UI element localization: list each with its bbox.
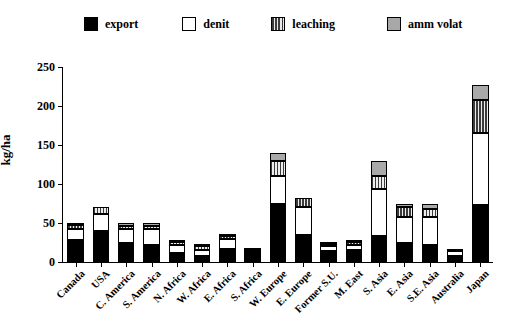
bar-segment-leaching [270, 161, 287, 177]
plot-area: 050100150200250 [62, 67, 493, 263]
x-axis-label-s-america: S. America [120, 268, 162, 310]
bar-usa [93, 207, 110, 262]
x-axis-tick [430, 262, 431, 267]
bar-japan [472, 85, 489, 262]
legend-label-leaching: leaching [292, 18, 335, 30]
x-axis-label-c-america: C. America [93, 268, 137, 312]
bar-segment-export [270, 204, 287, 263]
bar-s-e-asia [422, 204, 439, 262]
legend-item-leaching: leaching [271, 17, 335, 31]
bar-segment-export [320, 251, 337, 262]
y-axis-label: kg/ha [0, 134, 14, 165]
bar-e-africa [219, 234, 236, 262]
bar-segment-leaching [295, 198, 312, 207]
swatch-amm-volat-icon [387, 17, 401, 31]
x-axis-label-s-africa: S. Africa [228, 268, 263, 303]
bar-australia [447, 249, 464, 262]
swatch-leaching-icon [271, 17, 285, 31]
x-axis-label-e-europe: E. Europe [274, 268, 314, 308]
bar-segment-export [219, 249, 236, 262]
bar-segment-leaching [371, 176, 388, 189]
bar-segment-leaching [422, 209, 439, 217]
y-axis-tick [58, 262, 63, 263]
bar-segment-export [118, 243, 135, 263]
y-axis-tick-label: 200 [37, 99, 55, 114]
x-axis-tick [202, 262, 203, 267]
x-axis-tick [404, 262, 405, 267]
bar-n-africa [169, 240, 186, 262]
bar-segment-export [194, 256, 211, 262]
legend-item-export: export [84, 17, 138, 31]
x-axis-label-e-africa: E. Africa [202, 268, 238, 304]
x-axis-tick [101, 262, 102, 267]
bar-segment-denit [472, 133, 489, 205]
bar-segment-denit [396, 217, 413, 243]
x-axis-tick [354, 262, 355, 267]
bar-segment-denit [169, 245, 186, 253]
bar-s-africa [244, 248, 261, 262]
bar-segment-denit [93, 214, 110, 231]
legend-item-denit: denit [182, 17, 229, 31]
legend-item-amm-volat: amm volat [387, 17, 462, 31]
bar-segment-denit [219, 239, 236, 249]
x-axis-tick [480, 262, 481, 267]
x-axis-tick [253, 262, 254, 267]
bar-segment-denit [67, 229, 84, 240]
x-axis-tick [152, 262, 153, 267]
bar-segment-export [244, 252, 261, 262]
legend-label-amm-volat: amm volat [408, 18, 462, 30]
x-axis-label-japan: Japan [464, 268, 491, 295]
bar-s-america [143, 223, 160, 262]
bar-segment-export [93, 231, 110, 262]
bar-segment-export [422, 245, 439, 262]
bar-segment-export [143, 245, 160, 262]
y-axis-tick-label: 100 [37, 177, 55, 192]
bar-segment-amm-volat [270, 153, 287, 161]
x-axis-tick [126, 262, 127, 267]
bar-segment-export [371, 236, 388, 262]
bar-segment-denit [371, 189, 388, 236]
swatch-export-icon [84, 17, 98, 31]
x-axis-tick [177, 262, 178, 267]
bar-segment-amm-volat [371, 161, 388, 177]
x-axis-label-usa: USA [89, 268, 112, 291]
chart-legend: export denit leaching amm volat [84, 14, 444, 34]
bar-w-africa [194, 244, 211, 262]
bar-segment-leaching [472, 100, 489, 134]
bar-segment-denit [143, 229, 160, 245]
x-axis-tick [227, 262, 228, 267]
y-axis-tick-label: 0 [49, 255, 55, 270]
x-axis-tick [329, 262, 330, 267]
y-axis-tick-label: 150 [37, 138, 55, 153]
x-axis-label-n-africa: N. Africa [151, 268, 188, 305]
bars-layer [63, 67, 493, 262]
x-axis-label-s-asia: S. Asia [361, 268, 390, 297]
bar-segment-export [295, 235, 312, 262]
bar-segment-denit [270, 176, 287, 203]
bar-e-asia [396, 204, 413, 262]
legend-label-export: export [105, 18, 138, 30]
x-axis-tick [455, 262, 456, 267]
nitrogen-losses-bar-chart: export denit leaching amm volat kg/ha 05… [0, 0, 507, 322]
bar-segment-export [472, 205, 489, 262]
bar-m-east [346, 240, 363, 262]
bar-segment-export [169, 253, 186, 262]
x-axis-label-s-e-asia: S.E. Asia [404, 268, 440, 304]
bar-segment-leaching [396, 207, 413, 216]
bar-segment-export [447, 256, 464, 262]
x-axis-tick [379, 262, 380, 267]
x-axis-label-m-east: M. East [332, 268, 365, 301]
bar-e-europe [295, 198, 312, 262]
bar-segment-denit [422, 217, 439, 245]
x-axis-tick [278, 262, 279, 267]
bar-segment-amm-volat [472, 85, 489, 100]
x-axis-tick [303, 262, 304, 267]
bar-segment-denit [118, 229, 135, 242]
x-axis-label-former-s-u: Former S.U. [292, 268, 339, 315]
legend-label-denit: denit [203, 18, 229, 30]
y-axis-tick-label: 50 [43, 216, 55, 231]
bar-w-europe [270, 153, 287, 262]
bar-segment-export [396, 243, 413, 263]
bar-segment-export [67, 240, 84, 262]
x-axis-label-w-africa: W. Africa [175, 268, 213, 306]
